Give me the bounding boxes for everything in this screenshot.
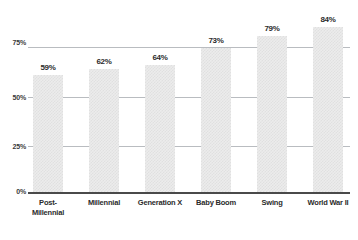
bar-millennial[interactable]: [89, 69, 119, 192]
bar-value-post-millennial: 59%: [25, 63, 71, 72]
bar-value-swing: 79%: [249, 24, 295, 33]
category-label-millennial: Millennial: [74, 198, 134, 208]
ytick-label-50: 50%: [2, 94, 26, 101]
bar-chart: 75% 50% 25% 0% 59% 62% 64% 73% 79% 84% P…: [0, 0, 358, 240]
bar-generation-x[interactable]: [145, 65, 175, 192]
bar-value-baby-boom: 73%: [193, 36, 239, 45]
gridline-25: [28, 146, 350, 147]
category-label-baby-boom: Baby Boom: [186, 198, 246, 208]
bar-post-millennial[interactable]: [33, 75, 63, 192]
bar-world-war-ii[interactable]: [313, 27, 343, 192]
bar-baby-boom[interactable]: [201, 48, 231, 192]
category-label-swing: Swing: [242, 198, 302, 208]
category-label-world-war-ii: World War II: [298, 198, 358, 208]
category-label-generation-x: Generation X: [130, 198, 190, 208]
ytick-label-25: 25%: [2, 143, 26, 150]
gridline-50: [28, 97, 350, 98]
bar-value-millennial: 62%: [81, 57, 127, 66]
bar-swing[interactable]: [257, 36, 287, 192]
bar-value-world-war-ii: 84%: [305, 15, 351, 24]
plot-area: 75% 50% 25% 0% 59% 62% 64% 73% 79% 84% P…: [0, 0, 358, 240]
gridline-75: [28, 47, 350, 48]
axis-baseline-0: [28, 192, 350, 194]
bar-value-generation-x: 64%: [137, 53, 183, 62]
ytick-label-0: 0%: [2, 188, 26, 195]
category-label-post-millennial: Post- Millennial: [18, 198, 78, 218]
ytick-label-75: 75%: [2, 39, 26, 46]
